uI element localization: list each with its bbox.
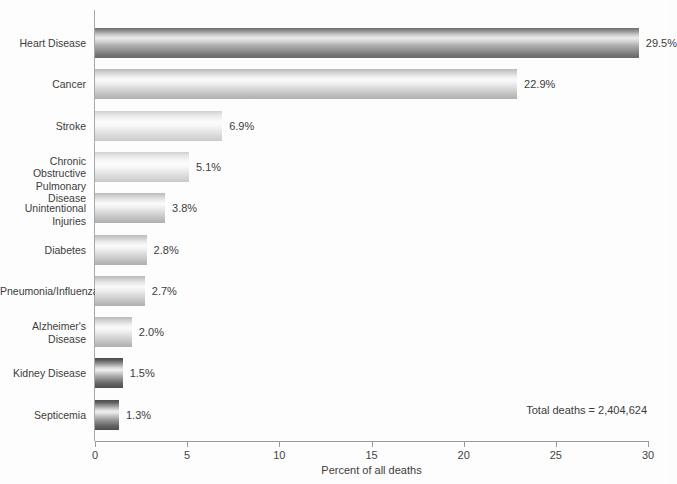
bar: [95, 111, 222, 141]
x-tick-label-25: 25: [550, 449, 562, 461]
x-tick-10: [279, 441, 280, 447]
x-tick-20: [464, 441, 465, 447]
value-label: 1.5%: [130, 367, 155, 379]
bar-row: Heart Disease29.5%: [0, 28, 669, 58]
category-label: Pneumonia/Influenza: [0, 285, 86, 298]
bar: [95, 28, 639, 58]
total-deaths-annotation: Total deaths = 2,404,624: [526, 404, 647, 416]
value-label: 1.3%: [126, 409, 151, 421]
x-axis-title: Percent of all deaths: [95, 464, 648, 476]
x-tick-label-20: 20: [458, 449, 470, 461]
category-label: Diabetes: [0, 244, 86, 257]
value-label: 29.5%: [646, 37, 677, 49]
x-tick-label-5: 5: [184, 449, 190, 461]
bar: [95, 193, 165, 223]
value-label: 2.7%: [152, 285, 177, 297]
value-label: 2.8%: [154, 244, 179, 256]
bar: [95, 69, 517, 99]
category-label: Heart Disease: [0, 37, 86, 50]
category-label: Unintentional Injuries: [0, 202, 86, 227]
value-label: 5.1%: [196, 161, 221, 173]
x-tick-15: [372, 441, 373, 447]
bar-row: Cancer22.9%: [0, 69, 669, 99]
bar-row: Kidney Disease1.5%: [0, 358, 669, 388]
bar: [95, 317, 132, 347]
category-label: Cancer: [0, 78, 86, 91]
bar: [95, 276, 145, 306]
value-label: 3.8%: [172, 202, 197, 214]
x-tick-label-0: 0: [92, 449, 98, 461]
x-tick-25: [556, 441, 557, 447]
bar: [95, 152, 189, 182]
x-tick-label-30: 30: [642, 449, 654, 461]
category-label: Stroke: [0, 120, 86, 133]
x-tick-5: [187, 441, 188, 447]
bar-row: Chronic Obstructive Pulmonary Disease5.1…: [0, 152, 669, 182]
x-tick-label-10: 10: [273, 449, 285, 461]
value-label: 6.9%: [229, 120, 254, 132]
bar-row: Unintentional Injuries3.8%: [0, 193, 669, 223]
bar-row: Stroke6.9%: [0, 111, 669, 141]
category-label: Septicemia: [0, 409, 86, 422]
bar-row: Alzheimer's Disease2.0%: [0, 317, 669, 347]
value-label: 2.0%: [139, 326, 164, 338]
value-label: 22.9%: [524, 78, 555, 90]
bar-row: Diabetes2.8%: [0, 235, 669, 265]
category-label: Kidney Disease: [0, 367, 86, 380]
bar-row: Pneumonia/Influenza2.7%: [0, 276, 669, 306]
bar: [95, 400, 119, 430]
x-tick-30: [648, 441, 649, 447]
x-tick-0: [95, 441, 96, 447]
bar: [95, 235, 147, 265]
bar: [95, 358, 123, 388]
x-tick-label-15: 15: [365, 449, 377, 461]
category-label: Alzheimer's Disease: [0, 320, 86, 345]
